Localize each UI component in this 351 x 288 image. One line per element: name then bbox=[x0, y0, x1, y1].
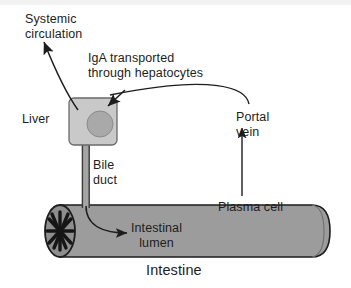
figure-canvas: Systemic circulation IgA transported thr… bbox=[0, 0, 351, 288]
label-portal-vein: Portal vein bbox=[236, 110, 269, 139]
intestine-tube bbox=[60, 205, 330, 257]
bile-duct-tube bbox=[82, 140, 90, 208]
label-intestinal-lumen: Intestinal lumen bbox=[131, 221, 182, 250]
label-systemic-circulation: Systemic circulation bbox=[25, 12, 82, 41]
hepatocyte-nucleus bbox=[87, 111, 113, 137]
label-plasma-cell: Plasma cell bbox=[218, 200, 283, 215]
label-bile-duct: Bile duct bbox=[93, 158, 117, 187]
label-iga-transport: IgA transported through hepatocytes bbox=[88, 51, 203, 80]
label-intestine: Intestine bbox=[146, 263, 202, 278]
portal-vein-curve bbox=[110, 84, 249, 104]
label-liver: Liver bbox=[22, 112, 50, 127]
